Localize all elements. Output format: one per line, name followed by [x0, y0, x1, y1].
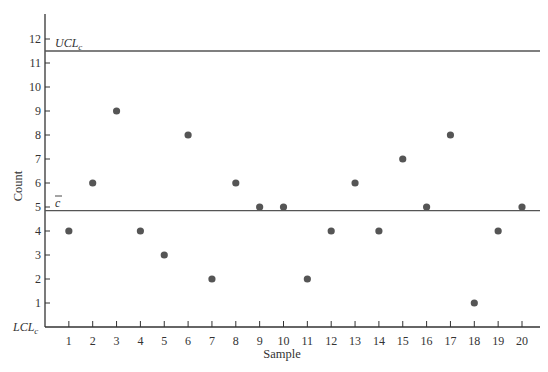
- x-tick-label: 13: [349, 334, 361, 348]
- ucl-label: UCLc: [55, 36, 82, 52]
- x-tick-label: 20: [516, 334, 528, 348]
- data-point: [518, 203, 525, 210]
- x-tick-label: 8: [233, 334, 239, 348]
- x-tick-label: 10: [278, 334, 290, 348]
- control-chart: 1234567891011121234567891011121314151617…: [0, 0, 548, 372]
- control-lines: [45, 51, 540, 211]
- x-tick-label: 4: [137, 334, 143, 348]
- x-tick-label: 11: [302, 334, 314, 348]
- x-tick-label: 15: [397, 334, 409, 348]
- x-tick-label: 12: [325, 334, 337, 348]
- y-tick-label: 12: [29, 32, 41, 46]
- x-tick-label: 3: [114, 334, 120, 348]
- y-tick-label: 1: [35, 296, 41, 310]
- y-tick-label: 7: [35, 152, 41, 166]
- x-tick-label: 5: [161, 334, 167, 348]
- cbar-label: c: [55, 196, 62, 210]
- data-point: [495, 227, 502, 234]
- x-tick-label: 1: [66, 334, 72, 348]
- x-tick-label: 17: [444, 334, 456, 348]
- data-point: [185, 131, 192, 138]
- data-point: [208, 275, 215, 282]
- y-tick-label: 4: [35, 224, 41, 238]
- x-tick-label: 9: [257, 334, 263, 348]
- data-point: [137, 227, 144, 234]
- x-tick-label: 6: [185, 334, 191, 348]
- x-tick-label: 2: [90, 334, 96, 348]
- data-point: [65, 227, 72, 234]
- data-point: [351, 179, 358, 186]
- y-axis-title: Count: [11, 170, 25, 201]
- data-point: [304, 275, 311, 282]
- x-tick-label: 7: [209, 334, 215, 348]
- data-point: [399, 155, 406, 162]
- y-tick-label: 11: [29, 56, 41, 70]
- data-point: [232, 179, 239, 186]
- data-point: [89, 179, 96, 186]
- x-tick-label: 16: [421, 334, 433, 348]
- data-point: [280, 203, 287, 210]
- data-point: [375, 227, 382, 234]
- lcl-label: LCLc: [12, 320, 38, 336]
- y-tick-label: 10: [29, 80, 41, 94]
- y-tick-label: 3: [35, 248, 41, 262]
- x-tick-label: 18: [468, 334, 480, 348]
- data-point: [423, 203, 430, 210]
- svg-text:c: c: [55, 196, 61, 210]
- x-tick-label: 14: [373, 334, 385, 348]
- data-point: [471, 299, 478, 306]
- data-point: [328, 227, 335, 234]
- data-points: [65, 107, 525, 306]
- y-tick-label: 9: [35, 104, 41, 118]
- data-point: [256, 203, 263, 210]
- axes: 1234567891011121234567891011121314151617…: [29, 14, 540, 348]
- y-tick-label: 2: [35, 272, 41, 286]
- x-axis-title: Sample: [263, 347, 301, 361]
- data-point: [447, 131, 454, 138]
- data-point: [161, 251, 168, 258]
- data-point: [113, 107, 120, 114]
- x-tick-label: 19: [492, 334, 504, 348]
- y-tick-label: 5: [35, 200, 41, 214]
- y-tick-label: 6: [35, 176, 41, 190]
- y-tick-label: 8: [35, 128, 41, 142]
